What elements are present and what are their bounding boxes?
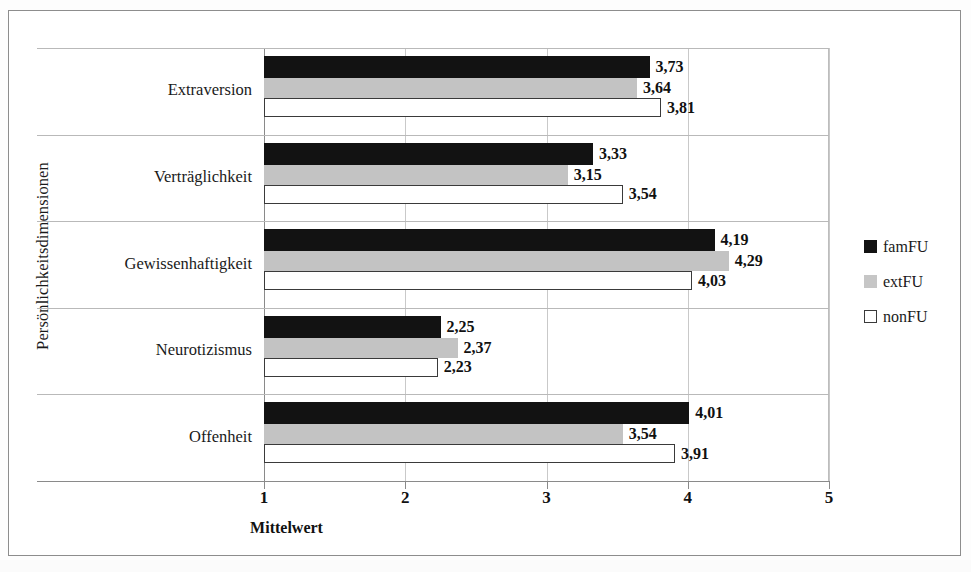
bar-value-label: 2,37 xyxy=(464,340,492,356)
scan-artifact-band xyxy=(0,560,971,572)
bar-value-label: 3,54 xyxy=(629,186,657,202)
bar-famfu-offenheit xyxy=(264,402,689,424)
x-axis-title: Mittelwert xyxy=(9,519,971,537)
legend-item-nonfu[interactable]: nonFU xyxy=(864,299,964,334)
bar-value-label: 3,33 xyxy=(599,146,627,162)
x-tick-label: 4 xyxy=(684,489,693,506)
legend-label-famfu: famFU xyxy=(883,238,928,256)
bar-value-label: 4,19 xyxy=(721,232,749,248)
x-tick-label: 3 xyxy=(542,489,551,506)
legend-item-famfu[interactable]: famFU xyxy=(864,229,964,264)
bar-nonfu-extraversion xyxy=(264,98,661,117)
category-separator xyxy=(37,135,829,136)
chart-frame: Persönlichkeitsdimensionen ExtraversionV… xyxy=(8,10,961,556)
bar-extfu-gewissenhaftigkeit xyxy=(264,251,729,271)
bar-famfu-neurotizismus xyxy=(264,316,441,338)
bar-value-label: 3,54 xyxy=(629,426,657,442)
category-label: Offenheit xyxy=(189,429,252,446)
x-gridline xyxy=(829,48,830,481)
bar-famfu-gewissenhaftigkeit xyxy=(264,229,715,251)
bar-value-label: 3,91 xyxy=(681,446,709,462)
bar-value-label: 3,73 xyxy=(656,59,684,75)
chart-screenshot: Persönlichkeitsdimensionen ExtraversionV… xyxy=(0,0,971,572)
bar-value-label: 3,15 xyxy=(574,167,602,183)
category-label: Verträglichkeit xyxy=(154,169,252,186)
white-square-icon xyxy=(864,310,877,323)
bar-value-label: 4,03 xyxy=(698,273,726,289)
bar-extfu-extraversion xyxy=(264,78,637,98)
plot-top-border xyxy=(37,48,829,49)
category-separator xyxy=(37,394,829,395)
category-label: Extraversion xyxy=(168,82,252,99)
bar-nonfu-verträglichkeit xyxy=(264,185,623,204)
bar-nonfu-gewissenhaftigkeit xyxy=(264,271,692,290)
bar-nonfu-offenheit xyxy=(264,444,675,463)
category-label: Neurotizismus xyxy=(156,342,252,359)
bar-nonfu-neurotizismus xyxy=(264,358,438,377)
gray-square-icon xyxy=(864,275,877,288)
bar-extfu-neurotizismus xyxy=(264,338,458,358)
bar-famfu-extraversion xyxy=(264,56,650,78)
x-axis-baseline xyxy=(37,481,829,482)
bar-famfu-verträglichkeit xyxy=(264,143,593,165)
bar-value-label: 4,01 xyxy=(695,405,723,421)
chart-legend: famFU extFU nonFU xyxy=(864,229,964,334)
category-separator xyxy=(37,308,829,309)
black-square-icon xyxy=(864,240,877,253)
x-tick-label: 2 xyxy=(401,489,410,506)
x-axis-title-text: Mittelwert xyxy=(250,519,323,536)
bar-extfu-verträglichkeit xyxy=(264,165,568,185)
bar-value-label: 4,29 xyxy=(735,253,763,269)
legend-label-extfu: extFU xyxy=(883,273,923,291)
plot-area: 3,733,643,813,333,153,544,194,294,032,25… xyxy=(264,48,829,481)
bar-value-label: 3,81 xyxy=(667,100,695,116)
category-separator xyxy=(37,221,829,222)
x-tick-label: 1 xyxy=(260,489,269,506)
bar-value-label: 2,23 xyxy=(444,359,472,375)
x-tick-label: 5 xyxy=(825,489,834,506)
legend-label-nonfu: nonFU xyxy=(883,308,927,326)
category-label-column: ExtraversionVerträglichkeitGewissenhafti… xyxy=(37,48,259,481)
plot-right-edge xyxy=(828,48,829,481)
legend-item-extfu[interactable]: extFU xyxy=(864,264,964,299)
bar-extfu-offenheit xyxy=(264,424,623,444)
category-label: Gewissenhaftigkeit xyxy=(125,256,252,273)
bar-value-label: 3,64 xyxy=(643,80,671,96)
bar-value-label: 2,25 xyxy=(447,319,475,335)
